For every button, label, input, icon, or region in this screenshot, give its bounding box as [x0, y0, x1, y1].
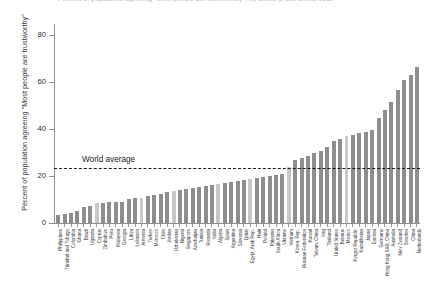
x-axis-tick: [359, 224, 360, 227]
x-axis-tick: [243, 224, 244, 227]
x-axis-tick-slot: [414, 224, 420, 227]
x-axis-tick: [90, 224, 91, 227]
x-axis-tick: [115, 224, 116, 227]
y-axis-tick: 60: [49, 82, 54, 83]
x-axis-tick: [205, 224, 206, 227]
bar: [357, 133, 361, 223]
x-axis-tick: [416, 224, 417, 227]
bar: [242, 180, 246, 223]
bar: [345, 136, 349, 223]
y-axis-label: Percent of population agreeing "Most peo…: [20, 0, 29, 233]
x-axis-tick: [58, 224, 59, 227]
bar: [236, 181, 240, 223]
bar: [216, 184, 220, 223]
bar: [287, 167, 291, 223]
bar: [95, 203, 99, 223]
bar: [248, 179, 252, 223]
bar: [114, 202, 118, 223]
x-axis-tick: [397, 224, 398, 227]
x-axis-tick: [263, 224, 264, 227]
bar: [293, 160, 297, 223]
y-axis-tick-label: 60: [38, 77, 46, 86]
bar: [120, 202, 124, 223]
plot-area: 020406080 World average: [54, 24, 420, 224]
x-axis-tick: [320, 224, 321, 227]
bar: [377, 118, 381, 223]
bar: [415, 67, 419, 223]
x-axis-tick: [83, 224, 84, 227]
bar: [133, 198, 137, 223]
x-axis-tick: [404, 224, 405, 227]
x-axis-tick: [288, 224, 289, 227]
chart-title: Percent of population agreeing "Most peo…: [58, 0, 418, 2]
bar-series: [55, 24, 420, 223]
world-average-label: World average: [82, 155, 135, 164]
bar: [172, 191, 176, 223]
bar: [332, 141, 336, 223]
x-axis-tick: [77, 224, 78, 227]
bar: [127, 199, 131, 223]
bar: [364, 132, 368, 223]
x-axis-category-label: Netherlands: [417, 229, 422, 253]
bar: [88, 206, 92, 223]
x-axis-tick: [147, 224, 148, 227]
bar: [159, 194, 163, 223]
x-axis-tick: [186, 224, 187, 227]
x-axis-tick: [64, 224, 65, 227]
x-axis-tick: [141, 224, 142, 227]
x-axis-tick: [314, 224, 315, 227]
bar: [146, 196, 150, 223]
x-axis-tick: [327, 224, 328, 227]
bar: [107, 202, 111, 223]
chart-container: Percent of population agreeing "Most peo…: [0, 0, 424, 290]
x-axis-tick: [211, 224, 212, 227]
bar: [184, 189, 188, 223]
x-axis-tick: [250, 224, 251, 227]
bar: [223, 183, 227, 223]
x-axis-tick: [109, 224, 110, 227]
bar: [69, 213, 73, 223]
bar: [306, 156, 310, 223]
x-axis-tick: [103, 224, 104, 227]
bar: [338, 139, 342, 223]
x-axis-tick: [96, 224, 97, 227]
x-axis-tick: [122, 224, 123, 227]
y-axis-tick-label: 40: [38, 124, 46, 133]
x-axis-tick: [237, 224, 238, 227]
bar: [261, 177, 265, 223]
x-axis-tick: [231, 224, 232, 227]
x-axis-tick: [173, 224, 174, 227]
x-axis-tick: [301, 224, 302, 227]
x-axis-tick: [154, 224, 155, 227]
bar: [197, 187, 201, 223]
bar: [178, 190, 182, 223]
y-axis-tick: 40: [49, 129, 54, 130]
bar: [325, 147, 329, 223]
bar: [351, 135, 355, 223]
y-axis-tick-label: 0: [42, 218, 46, 227]
x-axis-tick: [192, 224, 193, 227]
bar: [101, 203, 105, 223]
y-axis-tick: 0: [49, 223, 54, 224]
bar: [312, 153, 316, 223]
bar: [383, 110, 387, 223]
bar: [409, 75, 413, 223]
x-axis-tick: [333, 224, 334, 227]
bar: [389, 102, 393, 223]
bar: [191, 188, 195, 223]
bar: [56, 215, 60, 223]
x-axis-tick: [372, 224, 373, 227]
x-axis-tick: [282, 224, 283, 227]
x-axis-tick: [410, 224, 411, 227]
x-axis-tick: [365, 224, 366, 227]
bar: [268, 176, 272, 223]
bar: [210, 185, 214, 223]
x-axis-tick: [391, 224, 392, 227]
x-axis-tick: [218, 224, 219, 227]
x-axis-ticks: [55, 224, 420, 227]
x-axis-tick: [384, 224, 385, 227]
x-axis-tick: [308, 224, 309, 227]
bar: [402, 80, 406, 223]
bar: [165, 192, 169, 223]
y-axis-tick: 80: [49, 35, 54, 36]
